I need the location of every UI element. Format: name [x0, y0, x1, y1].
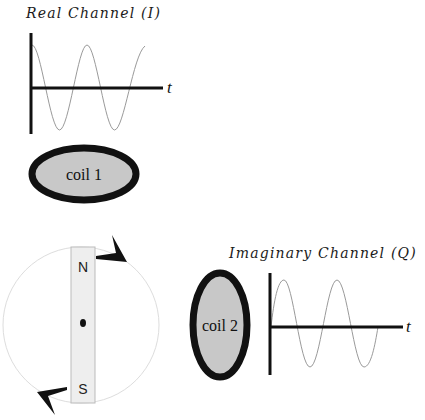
coil-quadrature-diagram: Real Channel (I) t coil 1 N S Imaginary … — [0, 0, 425, 420]
magnet-north-label: N — [78, 259, 88, 275]
coil-1-label: coil 1 — [66, 166, 102, 183]
rotating-magnet: N S — [3, 235, 159, 415]
coil-2: coil 2 — [193, 273, 247, 377]
real-channel-t-label: t — [167, 78, 173, 97]
magnet-south-label: S — [78, 381, 87, 397]
imaginary-channel-waveform — [271, 280, 378, 367]
coil-2-label: coil 2 — [202, 317, 238, 334]
real-channel-group: Real Channel (I) t — [25, 5, 173, 134]
imaginary-channel-title: Imaginary Channel (Q) — [228, 245, 417, 261]
magnet-pivot-dot — [80, 319, 86, 327]
coil-1: coil 1 — [32, 148, 136, 200]
rotation-arrow-top-icon — [96, 235, 127, 262]
real-channel-title: Real Channel (I) — [25, 5, 161, 21]
imaginary-channel-group: Imaginary Channel (Q) t — [228, 245, 417, 375]
imaginary-channel-t-label: t — [406, 317, 412, 336]
